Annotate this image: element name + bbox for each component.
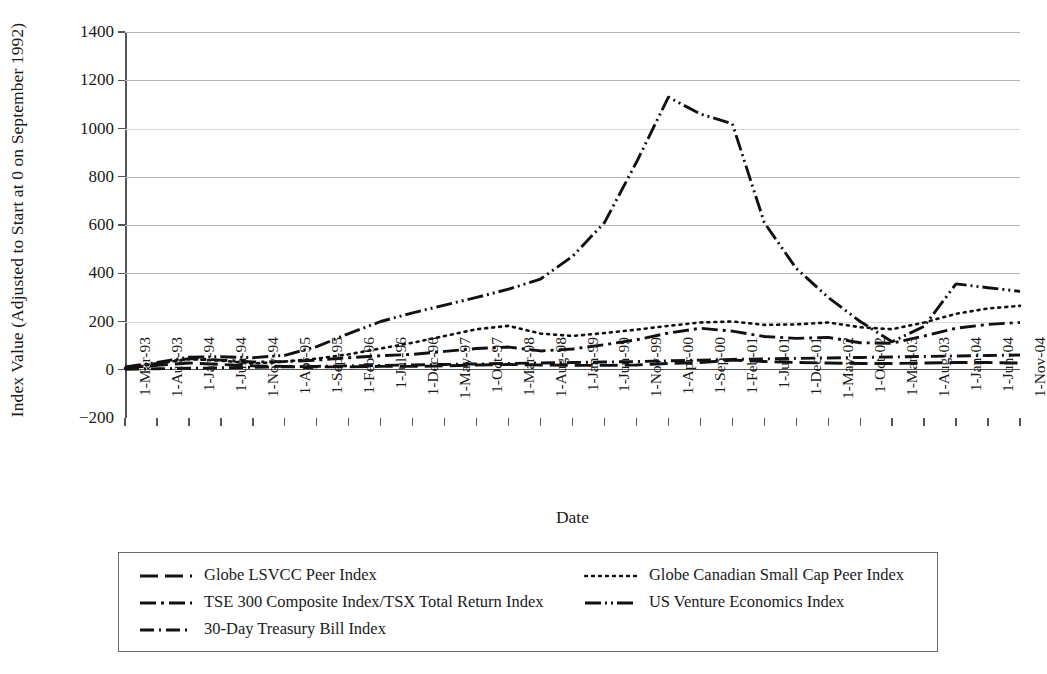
legend-line-swatch (584, 569, 638, 583)
x-axis-tick-label: 1-Jul-96 (392, 337, 410, 429)
y-axis-tick-label: 1000 (80, 119, 114, 139)
y-axis-tick (118, 80, 125, 81)
x-axis-tick (476, 418, 477, 426)
x-axis-tick (572, 418, 573, 426)
series-line (125, 97, 1020, 367)
chart-legend: Globe LSVCC Peer IndexGlobe Canadian Sma… (118, 552, 938, 652)
y-axis-tick-label: 400 (89, 263, 115, 283)
x-axis-tick (828, 418, 829, 426)
x-axis-tick-label: 1-Feb-96 (360, 337, 378, 429)
x-axis-tick-label: 1-Apr-95 (296, 337, 314, 429)
y-axis-tick-label: 1400 (80, 22, 114, 42)
x-axis-tick (987, 418, 988, 426)
legend-line-swatch (139, 596, 193, 610)
x-axis-tick-label: 1-Sep-00 (711, 337, 729, 429)
x-axis-tick (764, 418, 765, 426)
x-axis-tick-label: 1-Aug-03 (935, 337, 953, 429)
y-axis-tick (118, 128, 125, 129)
x-axis-tick (444, 418, 445, 426)
x-axis-tick-label: 1-Jul-01 (775, 337, 793, 429)
x-axis-tick-label: 1-Nov-99 (647, 337, 665, 429)
y-axis-tick-label: 800 (89, 167, 115, 187)
x-axis-tick (1019, 418, 1020, 426)
x-axis-tick-label: 1-Dec-01 (807, 337, 825, 429)
x-axis-tick-label: 1-Jan-04 (967, 337, 985, 429)
x-axis-tick (508, 418, 509, 426)
x-axis-tick-label: 1-Mar-03 (903, 337, 921, 429)
x-axis-tick (124, 418, 125, 426)
x-axis-tick (412, 418, 413, 426)
x-axis-tick (732, 418, 733, 426)
x-axis-tick-label: 1-Aug-98 (552, 337, 570, 429)
x-axis-tick (188, 418, 189, 426)
x-axis-tick-label: 1-Apr-00 (679, 337, 697, 429)
legend-item[interactable]: TSE 300 Composite Index/TSX Total Return… (119, 594, 578, 611)
legend-label: Globe Canadian Small Cap Peer Index (649, 567, 904, 584)
x-axis-tick-label: 1-Nov-94 (264, 337, 282, 429)
legend-item[interactable]: Globe Canadian Small Cap Peer Index (578, 567, 937, 584)
x-axis-tick-label: 1-Mar-93 (136, 337, 154, 429)
y-axis-tick-label: 200 (89, 312, 115, 332)
x-axis: 1-Mar-931-Aug-931-Jan-941-Jun-941-Nov-94… (125, 418, 1020, 419)
legend-label: 30-Day Treasury Bill Index (204, 621, 386, 638)
legend-row: TSE 300 Composite Index/TSX Total Return… (119, 589, 937, 616)
y-axis-tick (118, 369, 125, 370)
x-axis-tick (860, 418, 861, 426)
x-axis-tick-label: 1-Oct-97 (488, 337, 506, 429)
chart-figure: Index Value (Adjusted to Start at 0 on S… (0, 0, 1047, 674)
legend-line-swatch (584, 596, 638, 610)
x-axis-title: Date (125, 507, 1020, 528)
x-axis-tick-label: 1-May-02 (839, 337, 857, 429)
y-axis-tick (118, 321, 125, 322)
x-axis-tick-label: 1-Mar-98 (520, 337, 538, 429)
x-axis-tick-label: 1-Dec-96 (424, 337, 442, 429)
x-axis-tick (156, 418, 157, 426)
x-axis-tick-label: 1-Jan-99 (584, 337, 602, 429)
y-axis-tick (118, 176, 125, 177)
legend-line-swatch (139, 569, 193, 583)
x-axis-tick-label: 1-Jun-04 (999, 337, 1017, 429)
x-axis-tick (923, 418, 924, 426)
x-axis-tick-label: 1-Oct-02 (871, 337, 889, 429)
y-axis-tick-label: 1200 (80, 70, 114, 90)
legend-row: 30-Day Treasury Bill Index (119, 616, 937, 643)
x-axis-tick (380, 418, 381, 426)
x-axis-tick (796, 418, 797, 426)
x-axis-tick (891, 418, 892, 426)
x-axis-tick (316, 418, 317, 426)
y-axis-tick-label: −200 (79, 408, 114, 428)
x-axis-tick (252, 418, 253, 426)
x-axis-tick-label: 1-Jan-94 (200, 337, 218, 429)
y-axis-tick-label: 600 (89, 215, 115, 235)
legend-item[interactable]: US Venture Economics Index (578, 594, 937, 611)
x-axis-tick-label: 1-Jun-99 (615, 337, 633, 429)
x-axis-tick-label: 1-Jun-94 (232, 337, 250, 429)
x-axis-tick (636, 418, 637, 426)
legend-row: Globe LSVCC Peer IndexGlobe Canadian Sma… (119, 562, 937, 589)
x-axis-tick-label: 1-May-97 (456, 337, 474, 429)
y-axis-tick (118, 31, 125, 32)
x-axis-tick-label: 1-Aug-93 (168, 337, 186, 429)
x-axis-tick (668, 418, 669, 426)
x-axis-tick-label: 1-Nov-04 (1031, 337, 1047, 429)
x-axis-tick (348, 418, 349, 426)
legend-line-swatch (139, 623, 193, 637)
x-axis-tick-label: 1-Sep-95 (328, 337, 346, 429)
y-axis-tick (118, 273, 125, 274)
legend-item[interactable]: 30-Day Treasury Bill Index (119, 621, 578, 638)
legend-label: US Venture Economics Index (649, 594, 844, 611)
legend-label: TSE 300 Composite Index/TSX Total Return… (204, 594, 544, 611)
x-axis-tick (540, 418, 541, 426)
legend-item[interactable]: Globe LSVCC Peer Index (119, 567, 578, 584)
y-axis-tick-label: 0 (106, 360, 115, 380)
x-axis-tick (955, 418, 956, 426)
x-axis-tick (284, 418, 285, 426)
legend-label: Globe LSVCC Peer Index (204, 567, 377, 584)
x-axis-tick (220, 418, 221, 426)
x-axis-tick (700, 418, 701, 426)
y-axis-title: Index Value (Adjusted to Start at 0 on S… (0, 0, 34, 440)
y-axis-tick (118, 224, 125, 225)
x-axis-tick (604, 418, 605, 426)
x-axis-tick-label: 1-Feb-01 (743, 337, 761, 429)
